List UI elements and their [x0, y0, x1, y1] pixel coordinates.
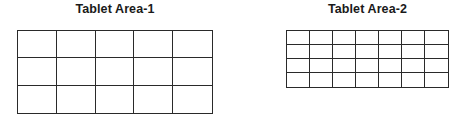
grid-cell — [379, 31, 402, 45]
grid-cell — [333, 45, 356, 59]
grid-cell — [402, 73, 425, 87]
grid-cell — [425, 45, 448, 59]
grid-cell — [379, 59, 402, 73]
grid-cell — [402, 31, 425, 45]
grid-cell — [287, 73, 310, 87]
grid-cell — [402, 45, 425, 59]
grid-cell — [310, 73, 333, 87]
grid-cell — [310, 45, 333, 59]
grid-cell — [134, 31, 173, 58]
grid-cell — [379, 73, 402, 87]
tablet-area-2-grid — [286, 30, 449, 88]
grid-cell — [96, 86, 135, 113]
grid-cell — [57, 31, 96, 58]
grid-cell — [57, 58, 96, 85]
grid-cell — [310, 31, 333, 45]
grid-cell — [333, 73, 356, 87]
grid-cell — [425, 31, 448, 45]
tablet-area-2-title: Tablet Area-2 — [286, 2, 449, 16]
grid-cell — [333, 31, 356, 45]
grid-cell — [425, 59, 448, 73]
grid-cell — [18, 86, 57, 113]
grid-cell — [356, 31, 379, 45]
grid-cell — [134, 86, 173, 113]
grid-cell — [96, 58, 135, 85]
grid-cell — [173, 31, 212, 58]
grid-cell — [379, 45, 402, 59]
tablet-area-1-grid — [17, 30, 213, 114]
grid-cell — [356, 59, 379, 73]
tablet-area-1-title: Tablet Area-1 — [17, 2, 213, 16]
grid-cell — [57, 86, 96, 113]
grid-cell — [287, 45, 310, 59]
grid-cell — [134, 58, 173, 85]
grid-cell — [96, 31, 135, 58]
grid-cell — [402, 59, 425, 73]
grid-cell — [18, 58, 57, 85]
grid-cell — [173, 58, 212, 85]
grid-cell — [333, 59, 356, 73]
grid-cell — [425, 73, 448, 87]
grid-cell — [356, 73, 379, 87]
grid-cell — [18, 31, 57, 58]
grid-cell — [287, 31, 310, 45]
grid-cell — [173, 86, 212, 113]
grid-cell — [287, 59, 310, 73]
grid-cell — [356, 45, 379, 59]
grid-cell — [310, 59, 333, 73]
